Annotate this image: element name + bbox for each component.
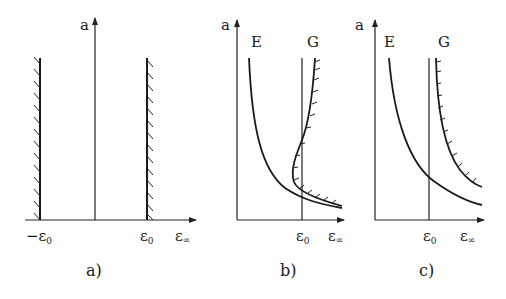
x-axis-label: ε∞ [460, 227, 475, 245]
panel-caption-c: c) [419, 261, 434, 280]
tick-label-neg-eps0: −ε0 [26, 227, 52, 246]
panel-b: a E G ε0 ε∞ b) [221, 16, 344, 280]
y-axis-label: a [80, 16, 89, 34]
figure: a [0, 0, 506, 299]
panel-caption-b: b) [280, 261, 296, 280]
tick-label-eps0: ε0 [140, 227, 154, 246]
panel-a: a [25, 16, 196, 280]
tick-label-eps0: ε0 [423, 227, 437, 246]
curve-label-e: E [384, 33, 395, 51]
x-axis-label: ε∞ [328, 227, 343, 245]
curve-label-g: G [438, 33, 450, 51]
curve-g-hatching [293, 60, 336, 203]
x-axis-label: ε∞ [175, 227, 190, 245]
curve-label-e: E [251, 33, 262, 51]
curve-g [436, 58, 482, 187]
panel-caption-a: a) [86, 261, 102, 280]
curve-label-g: G [307, 33, 319, 51]
curve-g [293, 58, 342, 206]
tick-label-eps0: ε0 [296, 227, 310, 246]
y-axis-label: a [355, 16, 364, 34]
curve-e [389, 58, 482, 205]
y-axis-label: a [221, 16, 230, 34]
panel-c: a E G ε0 ε∞ c) [355, 16, 484, 280]
